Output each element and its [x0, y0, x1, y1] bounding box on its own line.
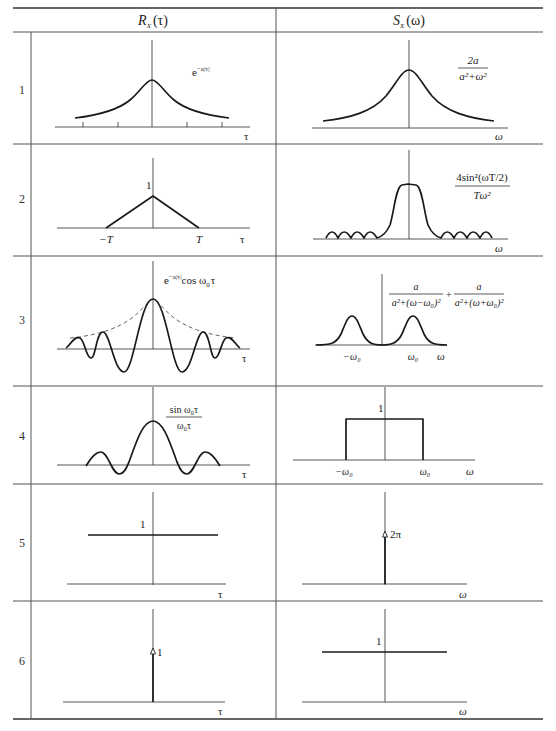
axis-label-tau: τ [244, 130, 249, 142]
formula-numerator: 4sin²(ωT/2) [456, 171, 508, 184]
header-rx: RX(τ) [137, 13, 168, 30]
pos-omega0-label: ω₀ [420, 466, 431, 477]
row-number: 4 [19, 429, 25, 443]
peak-label: 1 [146, 179, 152, 191]
axis-label-tau: τ [242, 468, 247, 480]
shifted-lorentzian-curve [316, 316, 447, 345]
formula-denominator: a²+ω² [459, 70, 487, 82]
formula-denominator: Tω² [473, 189, 491, 201]
formula: e−a|τ| [192, 65, 210, 78]
impulse-label: 2π [390, 528, 402, 540]
level-label: 1 [376, 635, 382, 647]
formula: e−a|τ|cos ω0τ [164, 273, 216, 289]
axis-label-omega: ω [437, 350, 445, 362]
row-number: 1 [19, 83, 25, 97]
axis-label-omega: ω [459, 705, 467, 717]
row-number: 5 [19, 536, 25, 550]
neg-omega0-label: −ω₀ [335, 466, 353, 477]
pos-omega0-label: ω₀ [408, 351, 419, 362]
row6-spectrum-plot: 1 ω [302, 609, 467, 717]
header-sx: SX(ω) [393, 13, 425, 30]
axis-label-tau: τ [240, 233, 245, 245]
row3-autocorrelation-plot: e−a|τ|cos ω0τ τ [57, 261, 250, 372]
row2-spectrum-plot: 4sin²(ωT/2) Tω² ω [313, 150, 510, 254]
term2-denominator: a²+(ω+ω₀)² [455, 297, 505, 309]
row5-spectrum-plot: 2π ω [302, 492, 467, 600]
row-number: 3 [19, 313, 25, 327]
rectangle-curve [346, 419, 423, 460]
triangle-curve [106, 196, 199, 228]
formula-denominator: ω₀τ [177, 420, 191, 431]
axis-label-tau: τ [218, 588, 223, 600]
row-number: 6 [19, 654, 25, 668]
pos-t-label: T [196, 233, 203, 245]
row4-autocorrelation-plot: sin ω₀τ ω₀τ τ [57, 387, 250, 480]
neg-t-label: −T [99, 233, 113, 245]
impulse-arrow-icon [151, 648, 156, 654]
height-label: 1 [378, 402, 384, 414]
row5-autocorrelation-plot: 1 τ [67, 492, 226, 600]
axis-label-omega: ω [466, 465, 474, 477]
row1-autocorrelation-plot: e−a|τ| τ [55, 40, 250, 142]
row2-autocorrelation-plot: 1 −T T τ [57, 158, 250, 245]
axis-label-omega: ω [495, 242, 503, 254]
formula-numerator: sin ω₀τ [170, 404, 198, 415]
impulse-arrow-icon [383, 531, 388, 537]
axis-label-tau: τ [218, 705, 223, 717]
row4-spectrum-plot: 1 −ω₀ ω₀ ω [293, 387, 475, 477]
neg-omega0-label: −ω₀ [343, 351, 361, 362]
row1-spectrum-plot: 2a a²+ω² ω [312, 40, 508, 142]
axis-label-omega: ω [459, 588, 467, 600]
axis-label-omega: ω [495, 130, 503, 142]
fourier-pair-table: RX(τ) SX(ω) 1 2 3 4 5 6 e−a|τ| τ 2a a²+ω… [0, 0, 556, 731]
row6-autocorrelation-plot: 1 τ [63, 609, 225, 717]
level-label: 1 [140, 518, 146, 530]
plus-sign: + [446, 289, 452, 300]
term2-numerator: a [477, 281, 482, 292]
term1-numerator: a [414, 281, 419, 292]
axis-label-tau: τ [242, 352, 247, 364]
formula-numerator: 2a [468, 54, 480, 66]
term1-denominator: a²+(ω−ω₀)² [392, 297, 442, 309]
row3-spectrum-plot: a a²+(ω−ω₀)² + a a²+(ω+ω₀)² −ω₀ ω₀ ω [315, 274, 504, 362]
row-number: 2 [19, 192, 25, 206]
impulse-label: 1 [157, 646, 163, 658]
